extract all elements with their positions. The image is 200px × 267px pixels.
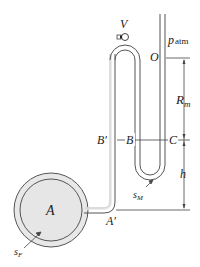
middle-leg (135, 60, 140, 165)
valve-icon (117, 34, 129, 41)
label-a-prime: A′ (105, 214, 116, 228)
lower-u-tube (135, 165, 165, 180)
label-s-m: sM (133, 189, 144, 202)
label-h: h (180, 167, 186, 181)
label-r-m: Rm (175, 92, 191, 109)
label-c: C (169, 133, 178, 147)
label-s-f: sF (14, 246, 23, 259)
label-a: A (45, 203, 55, 218)
label-b-prime: B′ (97, 133, 107, 147)
label-b: B (126, 133, 134, 147)
label-valve: V (120, 17, 129, 31)
right-open-leg (160, 14, 165, 165)
manometer-diagram: V patm O Rm B′ B C h sM A A′ sF (0, 0, 200, 267)
label-o: O (150, 50, 159, 64)
label-p-atm: patm (167, 33, 189, 47)
